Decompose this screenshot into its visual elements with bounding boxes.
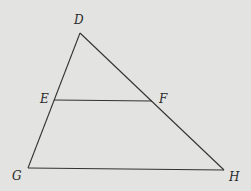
segment-EF [54,100,152,101]
diagram-canvas: D E F G H [0,0,251,191]
vertex-label-D: D [74,14,84,26]
segment-DH [80,33,224,170]
vertex-label-F: F [159,93,167,105]
vertex-label-E: E [40,93,49,105]
triangle-diagram [0,0,251,191]
vertex-label-H: H [229,171,239,183]
vertex-label-G: G [12,170,22,182]
segment-GH [28,168,224,170]
